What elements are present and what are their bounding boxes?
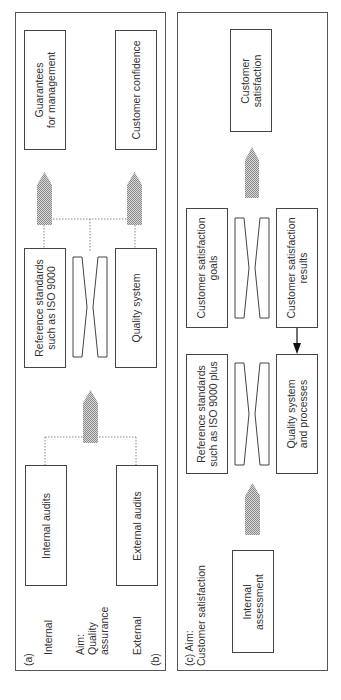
box-text: Quality system bbox=[130, 274, 142, 343]
box-internal-audits: Internal audits bbox=[25, 465, 67, 586]
box-reference-standards: Reference standardssuch as ISO 9000 bbox=[24, 248, 66, 368]
box-text: results bbox=[297, 218, 309, 319]
hatched-arrow-up-icon bbox=[245, 147, 259, 198]
hatched-arrow-up-icon bbox=[127, 172, 142, 225]
label-c-aim-customer-satisfaction: (c) Aim:Customer satisfaction bbox=[183, 565, 207, 666]
hatched-arrow-up-icon bbox=[83, 390, 98, 443]
solid-arrow-down-icon bbox=[293, 327, 301, 354]
box-text: Reference standards bbox=[195, 361, 207, 467]
box-text: External audits bbox=[131, 491, 143, 560]
box-text: satisfaction bbox=[251, 54, 263, 107]
box-text: Quality system bbox=[285, 380, 297, 449]
box-text: and processes bbox=[297, 380, 309, 449]
box-text: Internal bbox=[241, 573, 253, 629]
bowtie-comparison-icon bbox=[235, 218, 269, 318]
box-quality-system: Quality system bbox=[115, 248, 157, 368]
box-text: Reference standards bbox=[33, 259, 45, 356]
box-text: such as ISO 9000 plus bbox=[207, 361, 219, 467]
box-customer-satisfaction: Customersatisfaction bbox=[230, 29, 272, 132]
box-text: Customer bbox=[239, 54, 251, 107]
box-customer-satisfaction-goals: Customer satisfactiongoals bbox=[186, 208, 228, 328]
bowtie-comparison-icon bbox=[73, 257, 107, 357]
box-customer-satisfaction-results: Customer satisfactionresults bbox=[276, 208, 318, 328]
box-text: for management bbox=[45, 52, 57, 128]
box-text: Customer confidence bbox=[130, 40, 142, 139]
box-reference-standards-plus: Reference standardssuch as ISO 9000 plus bbox=[186, 354, 228, 474]
box-text: Customer satisfaction bbox=[195, 218, 207, 319]
box-text: Guarantees bbox=[33, 52, 45, 128]
label-aim-quality-assurance: Aim:Qualityassurance bbox=[74, 607, 110, 655]
box-text: such as ISO 9000 bbox=[45, 259, 57, 356]
hatched-arrow-up-icon bbox=[37, 172, 52, 225]
hatched-arrow-up-icon bbox=[245, 483, 260, 535]
label-external: External bbox=[131, 616, 143, 655]
box-text: Customer satisfaction bbox=[285, 218, 297, 319]
box-text: assessment bbox=[253, 573, 265, 629]
box-internal-assessment: Internalassessment bbox=[232, 550, 274, 653]
label-internal: Internal bbox=[42, 620, 54, 655]
box-text: Internal audits bbox=[40, 493, 52, 559]
box-external-audits: External audits bbox=[116, 465, 158, 586]
box-customer-confidence: Customer confidence bbox=[115, 30, 157, 150]
box-text: goals bbox=[207, 218, 219, 319]
box-quality-system-and-processes: Quality systemand processes bbox=[276, 354, 318, 474]
label-b: (b) bbox=[149, 653, 161, 666]
label-a: (a) bbox=[22, 653, 34, 666]
bowtie-comparison-icon bbox=[235, 363, 269, 465]
box-guarantees-for-management: Guaranteesfor management bbox=[24, 30, 66, 150]
